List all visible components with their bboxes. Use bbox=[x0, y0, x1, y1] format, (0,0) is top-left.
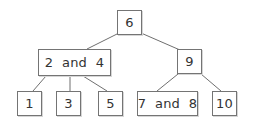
node-leaf-5-label: 5 bbox=[106, 97, 114, 110]
node-root-label: 6 bbox=[125, 16, 133, 29]
node-leaf-1: 1 bbox=[17, 91, 42, 116]
node-right-internal-label: 9 bbox=[185, 55, 193, 68]
tree-diagram: 6 2 and 4 9 1 3 5 7 and 8 10 bbox=[0, 0, 253, 127]
edge-left-leaf-5 bbox=[83, 76, 107, 91]
node-left-internal: 2 and 4 bbox=[38, 49, 111, 76]
edge-left-leaf-1 bbox=[33, 76, 46, 91]
node-leaf-3-label: 3 bbox=[64, 97, 72, 110]
node-leaf-5: 5 bbox=[98, 91, 123, 116]
edge-right-leaf-10 bbox=[201, 74, 221, 91]
node-leaf-3: 3 bbox=[56, 91, 81, 116]
node-leaf-10: 10 bbox=[212, 91, 237, 116]
node-right-internal: 9 bbox=[177, 49, 202, 74]
edge-root-left bbox=[87, 34, 117, 49]
node-left-internal-label: 2 and 4 bbox=[45, 56, 104, 69]
node-leaf-10-label: 10 bbox=[216, 97, 233, 110]
edge-root-right bbox=[141, 33, 180, 50]
edge-right-leaf-7-8 bbox=[157, 74, 178, 91]
node-leaf-1-label: 1 bbox=[25, 97, 33, 110]
node-leaf-7-8: 7 and 8 bbox=[137, 91, 198, 116]
node-root: 6 bbox=[117, 10, 142, 35]
node-leaf-7-8-label: 7 and 8 bbox=[138, 97, 197, 110]
